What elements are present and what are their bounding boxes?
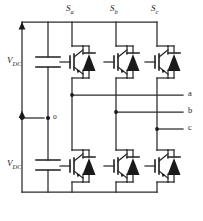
neutral-node-label-o: o xyxy=(53,113,57,121)
junction-dot-phase-b xyxy=(114,110,118,114)
igbt-upper-phase-c xyxy=(145,46,168,78)
diode-lower-phase-a xyxy=(83,150,96,182)
diode-upper-phase-a xyxy=(83,46,96,78)
circuit-diagram-figure: Sa Sb Sc VDC VDC o a b c xyxy=(0,0,203,221)
phase-output-label-c: c xyxy=(188,123,192,132)
voltage-label-vdc-upper-subscript: DC xyxy=(13,60,22,67)
junction-dot-phase-a xyxy=(70,93,74,97)
diode-lower-phase-c xyxy=(168,150,181,182)
igbt-lower-phase-a xyxy=(60,150,83,182)
switch-label-sa: Sa xyxy=(66,4,74,15)
junction-dot-cap-neutral xyxy=(46,116,50,120)
phase-output-label-b: b xyxy=(188,106,192,115)
igbt-lower-phase-c xyxy=(145,150,168,182)
igbt-lower-phase-b xyxy=(104,150,127,182)
voltage-label-vdc-upper: VDC xyxy=(7,56,22,67)
inverter-schematic-svg xyxy=(0,0,203,221)
switch-label-sc: Sc xyxy=(151,4,158,15)
switch-label-sb: Sb xyxy=(110,4,118,15)
switch-label-sc-subscript: c xyxy=(156,8,159,15)
voltage-label-vdc-lower: VDC xyxy=(7,159,22,170)
diode-upper-phase-c xyxy=(168,46,181,78)
igbt-upper-phase-b xyxy=(104,46,127,78)
vdc-upper-arrowhead xyxy=(19,22,26,30)
junction-dot-phase-c xyxy=(155,127,159,131)
voltage-label-vdc-lower-subscript: DC xyxy=(13,163,22,170)
diode-lower-phase-b xyxy=(127,150,140,182)
igbt-upper-phase-a xyxy=(60,46,83,78)
switch-label-sa-subscript: a xyxy=(71,8,74,15)
phase-output-label-a: a xyxy=(188,89,192,98)
switch-label-sb-subscript: b xyxy=(115,8,118,15)
junction-dot-left-neutral xyxy=(20,116,24,120)
diode-upper-phase-b xyxy=(127,46,140,78)
